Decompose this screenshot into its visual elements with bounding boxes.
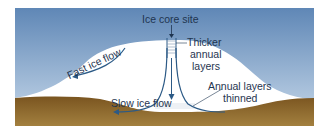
thicker-label-line1: Thicker: [187, 37, 221, 48]
ice-sheet-diagram: Ice core site Thicker annual layers Fast…: [15, 8, 314, 126]
annual-layers-thinned-line1: Annual layers: [208, 81, 272, 92]
annual-layers-thinned-line2: thinned: [223, 93, 257, 104]
thicker-label-line2: annual: [190, 49, 222, 60]
thicker-label-line3: layers: [192, 61, 220, 72]
slow-ice-flow-label: Slow ice flow: [111, 98, 172, 109]
ice-core-site-label: Ice core site: [142, 14, 199, 25]
